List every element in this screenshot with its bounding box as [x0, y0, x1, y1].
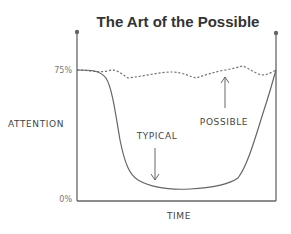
possible-arrow-icon	[221, 77, 229, 108]
typical-annotation: TYPICAL	[136, 131, 178, 141]
y-axis-label: ATTENTION	[8, 119, 64, 129]
chart: The Art of the Possible 75% 0% ATTENTION…	[0, 0, 291, 234]
tick-0: 0%	[59, 195, 72, 204]
x-axis-label: TIME	[166, 211, 191, 221]
tick-75: 75%	[54, 66, 72, 75]
possible-line	[77, 66, 276, 78]
right-axis-dot-icon	[274, 31, 278, 35]
chart-title: The Art of the Possible	[97, 13, 260, 30]
possible-annotation: POSSIBLE	[200, 117, 248, 127]
typical-line	[77, 70, 276, 189]
typical-arrow-icon	[151, 148, 159, 180]
left-axis-dot-icon	[75, 30, 79, 34]
